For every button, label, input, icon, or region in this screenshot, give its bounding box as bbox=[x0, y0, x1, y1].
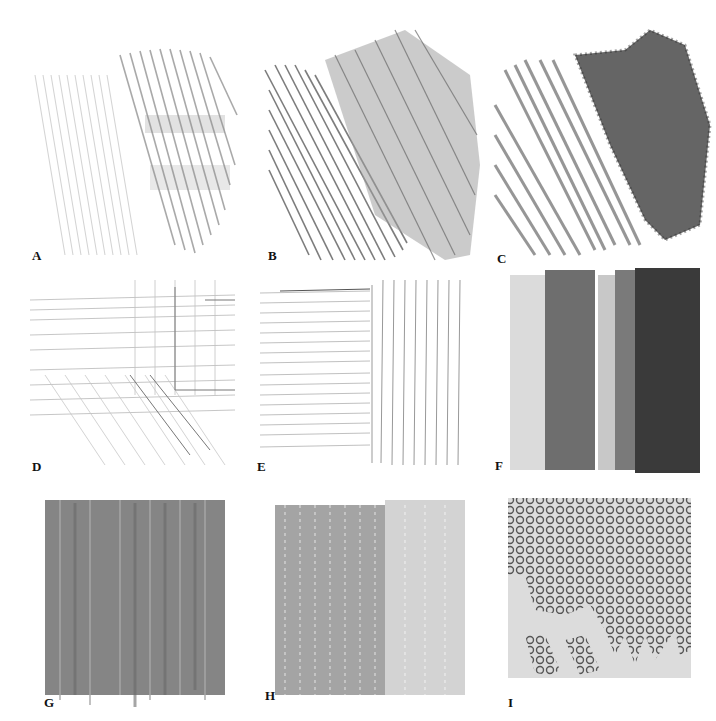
line-texture-e bbox=[255, 275, 485, 475]
tone-bands-texture-f bbox=[490, 260, 716, 475]
panel-b: B bbox=[255, 15, 485, 270]
panel-e: E bbox=[255, 275, 485, 475]
panel-label: H bbox=[265, 688, 275, 704]
panel-label: A bbox=[32, 248, 41, 264]
vertical-strokes-texture-g bbox=[40, 495, 240, 715]
hatching-texture-b bbox=[255, 15, 485, 270]
grainy-strokes-texture-h bbox=[265, 490, 480, 715]
panel-label: E bbox=[257, 459, 266, 475]
panel-h: H bbox=[265, 490, 480, 715]
panel-c: C bbox=[485, 25, 715, 270]
crosshatch-texture-d bbox=[25, 275, 250, 475]
panel-label: D bbox=[32, 459, 41, 475]
panel-i: I bbox=[505, 495, 700, 715]
loop-pattern-texture-i bbox=[505, 495, 700, 715]
hatching-texture-a bbox=[25, 45, 250, 265]
hatching-texture-c bbox=[485, 25, 715, 270]
panel-label: G bbox=[44, 695, 54, 711]
panel-f: F bbox=[490, 260, 716, 475]
panel-g: G bbox=[40, 495, 240, 715]
panel-d: D bbox=[25, 275, 250, 475]
panel-label: I bbox=[508, 695, 513, 711]
panel-label: B bbox=[268, 248, 277, 264]
panel-label: F bbox=[495, 458, 503, 474]
panel-a: A bbox=[25, 45, 250, 265]
